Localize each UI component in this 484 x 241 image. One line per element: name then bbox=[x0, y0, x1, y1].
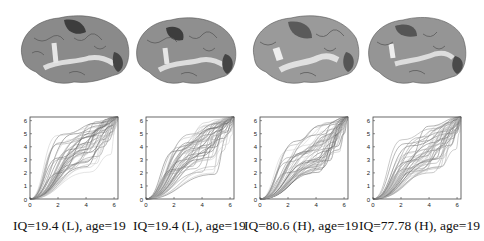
brain-surface-2 bbox=[131, 8, 241, 88]
svg-text:6: 6 bbox=[367, 118, 371, 124]
brain-surface-1 bbox=[14, 8, 134, 88]
brain-surface-3 bbox=[246, 8, 364, 88]
svg-text:4: 4 bbox=[254, 144, 258, 150]
caption-3: IQ=80.6 (H), age=19 bbox=[244, 218, 358, 234]
svg-text:1: 1 bbox=[254, 183, 258, 189]
svg-text:6: 6 bbox=[254, 118, 258, 124]
brain-surface-4 bbox=[363, 8, 473, 88]
curve-plot-1: 01234560246 bbox=[20, 112, 130, 212]
curve-plot-3: 01234560246 bbox=[250, 112, 360, 212]
caption-1: IQ=19.4 (L), age=19 bbox=[13, 218, 126, 234]
svg-text:1: 1 bbox=[24, 183, 28, 189]
svg-text:0: 0 bbox=[144, 202, 148, 208]
svg-text:5: 5 bbox=[24, 131, 28, 137]
svg-text:6: 6 bbox=[140, 118, 144, 124]
svg-text:5: 5 bbox=[367, 131, 371, 137]
svg-text:4: 4 bbox=[200, 202, 204, 208]
svg-text:6: 6 bbox=[228, 202, 232, 208]
svg-text:4: 4 bbox=[314, 202, 318, 208]
caption-2: IQ=19.4 (L), age=19 bbox=[133, 218, 246, 234]
svg-text:6: 6 bbox=[24, 118, 28, 124]
curve-plot-2: 01234560246 bbox=[136, 112, 246, 212]
curve-plot-4: 01234560246 bbox=[363, 112, 473, 212]
svg-text:4: 4 bbox=[367, 144, 371, 150]
svg-text:2: 2 bbox=[399, 202, 403, 208]
caption-4: IQ=77.78 (H), age=19 bbox=[359, 218, 480, 234]
svg-text:4: 4 bbox=[84, 202, 88, 208]
svg-text:2: 2 bbox=[367, 170, 371, 176]
svg-text:0: 0 bbox=[367, 197, 371, 203]
svg-text:4: 4 bbox=[427, 202, 431, 208]
svg-text:2: 2 bbox=[286, 202, 290, 208]
svg-text:1: 1 bbox=[367, 183, 371, 189]
svg-text:0: 0 bbox=[258, 202, 262, 208]
svg-text:3: 3 bbox=[24, 157, 28, 163]
svg-text:6: 6 bbox=[342, 202, 346, 208]
svg-text:2: 2 bbox=[24, 170, 28, 176]
svg-text:2: 2 bbox=[172, 202, 176, 208]
svg-text:0: 0 bbox=[371, 202, 375, 208]
svg-text:6: 6 bbox=[112, 202, 116, 208]
svg-text:2: 2 bbox=[254, 170, 258, 176]
svg-text:0: 0 bbox=[24, 197, 28, 203]
svg-text:5: 5 bbox=[254, 131, 258, 137]
svg-text:6: 6 bbox=[455, 202, 459, 208]
svg-text:0: 0 bbox=[140, 197, 144, 203]
svg-text:3: 3 bbox=[254, 157, 258, 163]
svg-text:3: 3 bbox=[367, 157, 371, 163]
svg-text:0: 0 bbox=[28, 202, 32, 208]
svg-text:3: 3 bbox=[140, 157, 144, 163]
svg-text:4: 4 bbox=[24, 144, 28, 150]
svg-text:2: 2 bbox=[56, 202, 60, 208]
svg-text:2: 2 bbox=[140, 170, 144, 176]
svg-text:5: 5 bbox=[140, 131, 144, 137]
svg-text:1: 1 bbox=[140, 183, 144, 189]
svg-text:4: 4 bbox=[140, 144, 144, 150]
svg-text:0: 0 bbox=[254, 197, 258, 203]
